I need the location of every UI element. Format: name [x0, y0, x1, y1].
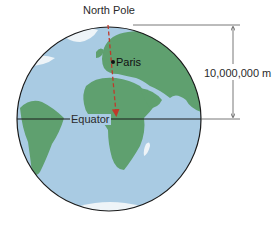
- north-pole-label: North Pole: [83, 5, 135, 16]
- paris-label: Paris: [116, 57, 141, 68]
- distance-label: 10,000,000 m: [204, 67, 271, 80]
- equator-label: Equator: [70, 114, 111, 125]
- paris-dot: [111, 60, 115, 64]
- globe-diagram: [0, 0, 278, 227]
